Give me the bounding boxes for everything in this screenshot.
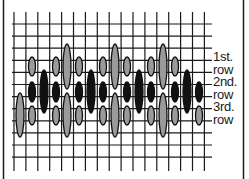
stitch-diagram — [0, 0, 249, 179]
stitch-gray-short — [100, 57, 107, 76]
stitch-gray-short — [100, 106, 107, 125]
stitch-black-short — [76, 82, 83, 102]
stitch-gray-long — [159, 93, 167, 137]
stitch-black-short — [196, 82, 203, 102]
stitch-black-long — [135, 70, 143, 113]
stitch-black-short — [172, 82, 179, 102]
stitch-black-short — [148, 82, 155, 102]
stitch-gray-short — [196, 106, 203, 125]
stitch-gray-short — [172, 106, 179, 125]
stitch-gray-long — [111, 93, 119, 137]
row-label: row — [213, 113, 233, 126]
stitch-gray-short — [76, 106, 83, 125]
stitch-black-long — [183, 70, 191, 113]
stitch-gray-short — [53, 106, 60, 125]
stitch-gray-long — [63, 93, 71, 137]
stitch-black-short — [100, 82, 107, 102]
stitch-gray-long — [63, 44, 71, 89]
stitch-gray-short — [29, 57, 36, 76]
stitch-black-long — [40, 70, 48, 113]
stitch-gray-short — [172, 57, 179, 76]
stitch-black-long — [87, 70, 95, 113]
stitch-gray-short — [148, 106, 155, 125]
stitch-gray-short — [148, 57, 155, 76]
stitch-gray-short — [53, 57, 60, 76]
stitch-black-short — [29, 82, 36, 102]
stitch-gray-short — [124, 57, 131, 76]
stitch-gray-short — [124, 106, 131, 125]
stitch-gray-long — [159, 44, 167, 89]
stitch-gray-short — [76, 57, 83, 76]
stitch-black-short — [124, 82, 131, 102]
stitch-gray-long — [16, 93, 24, 137]
stitch-gray-short — [29, 106, 36, 125]
stitch-black-short — [53, 82, 60, 102]
stitch-gray-long — [111, 44, 119, 89]
